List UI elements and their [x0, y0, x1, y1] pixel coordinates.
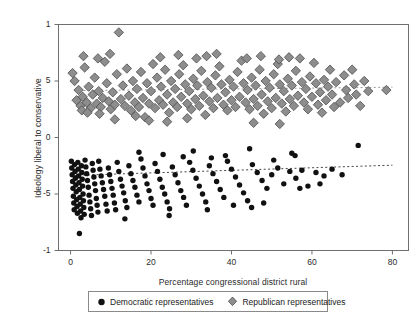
x-tick-label: 60 — [297, 257, 327, 267]
x-tick-label: 40 — [216, 257, 246, 267]
plot-frame — [59, 25, 409, 251]
y-tick-label: 5 — [25, 75, 51, 85]
circle-marker-icon — [97, 297, 106, 306]
y-tick-label: 0 — [25, 132, 51, 142]
diamond-marker-icon — [227, 296, 238, 307]
x-tick-label: 20 — [136, 257, 166, 267]
legend: Democratic representatives Republican re… — [88, 291, 328, 312]
y-tick-label: -1 — [25, 245, 51, 255]
x-tick-label: 80 — [377, 257, 407, 267]
x-axis-title: Percentage congressional district rural — [58, 277, 408, 287]
y-tick-label: -5 — [25, 188, 51, 198]
legend-label-democratic: Democratic representatives — [110, 297, 213, 307]
scatter-plot-figure: Ideology liberal to conservative Percent… — [0, 0, 417, 328]
x-tick-label: 0 — [56, 257, 86, 267]
legend-label-republican: Republican representatives — [242, 297, 345, 307]
legend-entry-republican: Republican representatives — [227, 296, 345, 307]
legend-entry-democratic: Democratic representatives — [97, 297, 213, 307]
y-tick-label: 1 — [25, 19, 51, 29]
